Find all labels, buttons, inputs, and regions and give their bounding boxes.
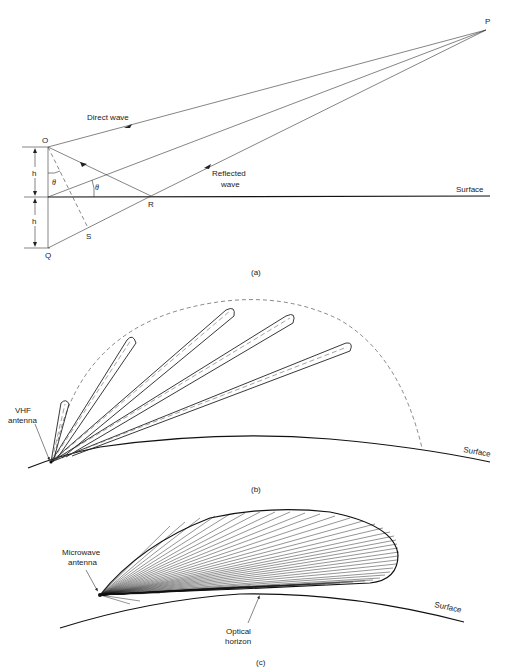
direct-wave-arrow-icon — [124, 124, 132, 128]
panel-b: VHF antenna Surface (b) — [8, 300, 492, 494]
caption-c: (c) — [256, 658, 266, 667]
earth-surface-curve-b — [28, 436, 490, 468]
angle-label-theta-O: θ — [52, 178, 56, 187]
optical-horizon-label-line2: horizon — [225, 637, 251, 646]
microwave-antenna-label-line2: antenna — [68, 558, 97, 567]
angle-arc-at-O — [48, 171, 60, 173]
surface-line — [48, 196, 490, 197]
reflected-wave-label-line1: Reflected — [212, 169, 246, 178]
optical-horizon-label-line1: Optical — [226, 627, 251, 636]
envelope-dashed-arc — [55, 300, 422, 455]
vhf-antenna-label-line2: antenna — [8, 416, 37, 425]
microwave-antenna-label-line1: Microwave — [62, 548, 101, 557]
surface-label-a: Surface — [456, 185, 484, 194]
microwave-beam-hatching — [100, 512, 399, 604]
height-label-upper: h — [32, 169, 36, 178]
diagram-canvas: h h θ θ P O R S Q Direct wave Reflected … — [0, 0, 506, 672]
caption-b: (b) — [251, 485, 261, 494]
radiation-lobe-4 — [51, 315, 294, 462]
point-label-O: O — [42, 136, 48, 145]
point-label-S: S — [86, 232, 91, 241]
angle-arc-at-surface — [92, 180, 94, 197]
reflected-wave-ray — [151, 30, 486, 196]
angle-label-theta-surface: θ — [95, 183, 99, 192]
perpendicular-dashed-line — [48, 147, 88, 228]
incident-ray — [48, 147, 151, 196]
microwave-antenna-icon — [98, 593, 102, 597]
vhf-antenna-icon — [49, 460, 52, 463]
surface-label-c: Surface — [434, 600, 463, 615]
incident-arrow-icon — [80, 162, 87, 167]
microwave-beam-outline — [100, 510, 398, 595]
vhf-antenna-label-line1: VHF — [15, 406, 31, 415]
panel-a: h h θ θ P O R S Q Direct wave Reflected … — [22, 17, 490, 277]
caption-a: (a) — [251, 268, 261, 277]
direct-wave-ray — [48, 30, 486, 147]
direct-wave-label: Direct wave — [87, 113, 129, 122]
earth-surface-curve-c — [60, 594, 464, 628]
point-label-R: R — [148, 200, 154, 209]
height-label-lower: h — [32, 217, 36, 226]
image-ray — [48, 196, 151, 248]
point-label-P: P — [485, 17, 490, 26]
point-label-Q: Q — [45, 251, 51, 260]
panel-c: Microwave antenna Optical horizon Surfac… — [60, 510, 464, 667]
reflected-wave-label-line2: wave — [220, 180, 240, 189]
reflected-wave-arrow-icon — [204, 164, 211, 169]
